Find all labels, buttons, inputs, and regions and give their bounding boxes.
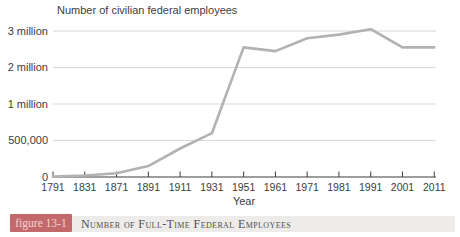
chart-svg: 0500,0001 million2 million3 million17911… [0,0,460,210]
x-tick-label: 1911 [169,181,192,193]
x-tick-label: 1831 [73,181,97,193]
data-line [53,29,434,176]
x-axis-title: Year [53,195,435,207]
x-tick-label: 1981 [327,181,351,193]
x-tick-label: 1961 [264,181,288,193]
y-tick-label: 1 million [8,98,48,110]
x-tick-label: 1991 [359,181,383,193]
x-tick-label: 1971 [295,181,319,193]
figure-caption: Number of Full-Time Federal Employees [72,216,455,232]
x-tick-label: 2001 [391,181,415,193]
x-tick-label: 1871 [105,181,129,193]
x-tick-label: 1951 [232,181,256,193]
x-tick-label: 1931 [200,181,224,193]
figure-13-1: Number of civilian federal employees 050… [0,0,460,237]
y-tick-label: 2 million [8,61,48,73]
x-tick-label: 2011 [423,181,446,193]
y-tick-label: 500,000 [8,134,48,146]
x-tick-label: 1791 [41,181,65,193]
x-tick-label: 1891 [137,181,161,193]
y-tick-label: 3 million [8,25,48,37]
figure-number-badge: figure 13-1 [10,214,72,232]
